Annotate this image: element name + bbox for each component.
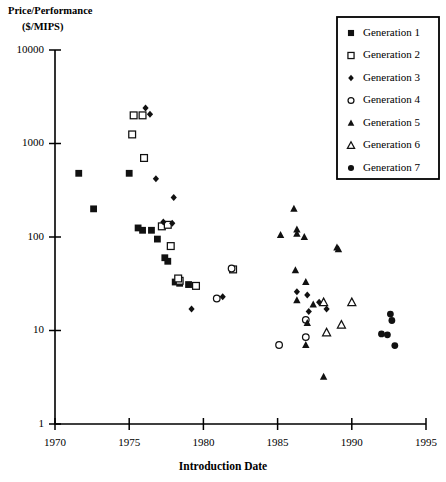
data-point <box>193 282 200 289</box>
data-point <box>301 233 308 240</box>
y-axis-title-line1: Price/Performance <box>8 5 93 16</box>
x-axis-ticks: 197019751980198519901995 <box>44 418 438 448</box>
data-point <box>388 317 395 324</box>
data-point <box>323 305 329 312</box>
series-2 <box>129 112 237 289</box>
data-point <box>293 296 300 303</box>
legend-label-7[interactable]: Generation 7 <box>363 161 421 173</box>
data-point <box>164 258 171 265</box>
legend-marker-7 <box>348 165 354 171</box>
data-point <box>213 295 220 302</box>
legend-label-4[interactable]: Generation 4 <box>363 93 421 105</box>
data-point <box>348 298 356 305</box>
data-point <box>294 288 300 295</box>
data-point <box>378 330 385 337</box>
data-point <box>304 291 310 298</box>
x-axis-title: Introduction Date <box>179 460 267 472</box>
data-point <box>384 331 391 338</box>
data-point <box>337 321 345 328</box>
y-tick-label: 100 <box>28 230 45 242</box>
data-point <box>277 231 284 238</box>
y-tick-label: 10000 <box>17 43 45 55</box>
data-point <box>171 194 177 201</box>
data-point <box>306 308 312 315</box>
data-point <box>188 305 194 312</box>
data-point <box>148 227 155 234</box>
y-axis-title: Price/Performance ($/MIPS) <box>8 5 93 33</box>
data-point <box>154 236 161 243</box>
series-6 <box>320 298 356 336</box>
data-point <box>167 243 174 250</box>
legend-label-5[interactable]: Generation 5 <box>363 116 421 128</box>
data-point <box>142 104 148 111</box>
x-tick-label: 1980 <box>192 436 215 448</box>
x-tick-label: 1990 <box>341 436 364 448</box>
legend-label-2[interactable]: Generation 2 <box>363 48 420 60</box>
series-3 <box>142 104 329 314</box>
data-point <box>126 170 133 177</box>
x-tick-label: 1975 <box>118 436 141 448</box>
data-point <box>75 170 82 177</box>
legend-marker-4 <box>348 98 354 104</box>
data-point <box>387 311 394 318</box>
legend-marker-1 <box>348 30 354 36</box>
y-axis-title-line2: ($/MIPS) <box>22 21 64 33</box>
data-point <box>310 300 317 307</box>
y-tick-label: 10 <box>33 323 45 335</box>
data-point <box>153 175 159 182</box>
data-point <box>391 342 398 349</box>
data-point <box>139 227 146 234</box>
data-point <box>185 281 192 288</box>
data-point <box>139 112 146 119</box>
x-tick-label: 1995 <box>415 436 438 448</box>
x-tick-label: 1970 <box>44 436 67 448</box>
series-5 <box>277 205 342 380</box>
x-tick-label: 1985 <box>267 436 290 448</box>
data-point <box>130 112 137 119</box>
data-point <box>302 278 309 285</box>
data-point <box>141 155 148 162</box>
legend-marker-2 <box>348 52 354 58</box>
data-point <box>129 131 136 138</box>
y-tick-label: 1 <box>39 417 45 429</box>
legend-label-1[interactable]: Generation 1 <box>363 26 420 38</box>
data-point <box>90 205 97 212</box>
data-point <box>175 275 182 282</box>
data-point <box>320 373 327 380</box>
legend-label-6[interactable]: Generation 6 <box>363 138 421 150</box>
data-point <box>147 111 153 118</box>
data-point <box>323 328 331 335</box>
data-point <box>290 205 297 212</box>
data-point <box>228 265 235 272</box>
data-point <box>276 342 283 349</box>
series-1 <box>75 170 192 288</box>
legend[interactable]: Generation 1Generation 2Generation 3Gene… <box>337 17 439 179</box>
data-point <box>302 341 309 348</box>
y-tick-label: 1000 <box>22 136 45 148</box>
data-point <box>292 266 299 273</box>
chart-canvas: Price/Performance ($/MIPS) 1101001000100… <box>0 0 446 482</box>
series-7 <box>378 311 398 349</box>
scatter-chart: Price/Performance ($/MIPS) 1101001000100… <box>0 0 446 482</box>
legend-label-3[interactable]: Generation 3 <box>363 71 421 83</box>
series-4 <box>213 265 309 348</box>
data-point <box>302 334 309 341</box>
